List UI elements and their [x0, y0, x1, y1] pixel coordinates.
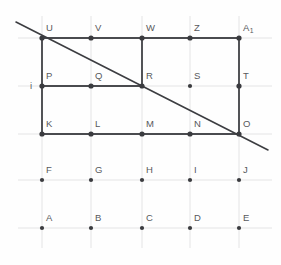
- lattice-point-O[interactable]: [236, 131, 241, 136]
- point-label-A1-subscript: 1: [250, 27, 254, 34]
- point-label-A1: A1: [243, 22, 254, 34]
- point-label-Q: Q: [95, 70, 102, 81]
- point-label-O: O: [243, 118, 250, 129]
- lattice-point-C[interactable]: [140, 226, 144, 230]
- point-label-N: N: [194, 118, 201, 129]
- lattice-point-S[interactable]: [188, 84, 192, 88]
- lattice-point-G[interactable]: [89, 178, 93, 182]
- lattice-point-N[interactable]: [187, 131, 192, 136]
- point-label-R: R: [146, 70, 153, 81]
- lattice-point-W[interactable]: [139, 35, 144, 40]
- lattice-point-T[interactable]: [236, 83, 241, 88]
- lattice-point-H[interactable]: [140, 178, 144, 182]
- diagram-canvas: Lattice point diagram with polygon and t…: [0, 0, 281, 265]
- point-label-L: L: [95, 118, 100, 129]
- point-label-P: P: [46, 70, 52, 81]
- point-label-G: G: [95, 164, 102, 175]
- lattice-point-V[interactable]: [88, 35, 93, 40]
- point-label-M: M: [146, 118, 154, 129]
- point-label-J: J: [243, 164, 248, 175]
- lattice-point-L[interactable]: [88, 131, 93, 136]
- point-label-V: V: [95, 22, 102, 33]
- lattice-point-F[interactable]: [40, 178, 44, 182]
- point-label-U: U: [46, 22, 53, 33]
- lattice-point-K[interactable]: [39, 131, 44, 136]
- lattice-point-M[interactable]: [139, 131, 144, 136]
- lattice-point-U[interactable]: [39, 35, 44, 40]
- point-label-I: I: [194, 164, 197, 175]
- point-label-F: F: [46, 164, 52, 175]
- point-label-T: T: [243, 70, 249, 81]
- point-label-B: B: [95, 212, 101, 223]
- annotation-label-i: i: [30, 80, 32, 91]
- lattice-point-Q[interactable]: [88, 83, 93, 88]
- lattice-point-layer: [39, 35, 241, 230]
- point-label-A: A: [46, 212, 53, 223]
- point-label-C: C: [146, 212, 153, 223]
- lattice-point-P[interactable]: [39, 83, 44, 88]
- lattice-point-R[interactable]: [139, 83, 144, 88]
- point-label-K: K: [46, 118, 53, 129]
- lattice-point-Z[interactable]: [187, 35, 192, 40]
- point-label-W: W: [146, 22, 155, 33]
- geometry-figure: Lattice point diagram with polygon and t…: [0, 0, 281, 265]
- point-label-Z: Z: [194, 22, 200, 33]
- lattice-point-E[interactable]: [237, 226, 241, 230]
- point-label-H: H: [146, 164, 153, 175]
- point-label-D: D: [194, 212, 201, 223]
- point-label-E: E: [243, 212, 249, 223]
- point-label-S: S: [194, 70, 200, 81]
- lattice-point-I[interactable]: [188, 178, 192, 182]
- lattice-point-J[interactable]: [237, 178, 241, 182]
- lattice-point-B[interactable]: [89, 226, 93, 230]
- lattice-point-A1[interactable]: [236, 35, 241, 40]
- lattice-point-A[interactable]: [40, 226, 44, 230]
- lattice-point-D[interactable]: [188, 226, 192, 230]
